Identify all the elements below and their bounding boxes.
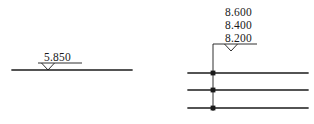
right-level-value-middle: 8.400 <box>225 19 252 31</box>
junction-dot-8200 <box>211 106 216 111</box>
left-level-marker: 5.850 <box>12 51 132 70</box>
right-level-value-top: 8.600 <box>225 6 252 18</box>
junction-dot-8600 <box>211 71 216 76</box>
junction-dot-8400 <box>211 88 216 93</box>
right-level-marker: 8.600 8.400 8.200 <box>213 6 257 111</box>
right-level-value-bottom: 8.200 <box>225 32 252 44</box>
level-triangle-icon <box>225 44 238 51</box>
elevation-drawing-canvas: 5.850 8.600 8.400 8.200 <box>0 0 314 124</box>
left-level-value: 5.850 <box>44 51 71 63</box>
level-triangle-icon <box>42 63 55 70</box>
slab-lines-group <box>188 73 308 108</box>
